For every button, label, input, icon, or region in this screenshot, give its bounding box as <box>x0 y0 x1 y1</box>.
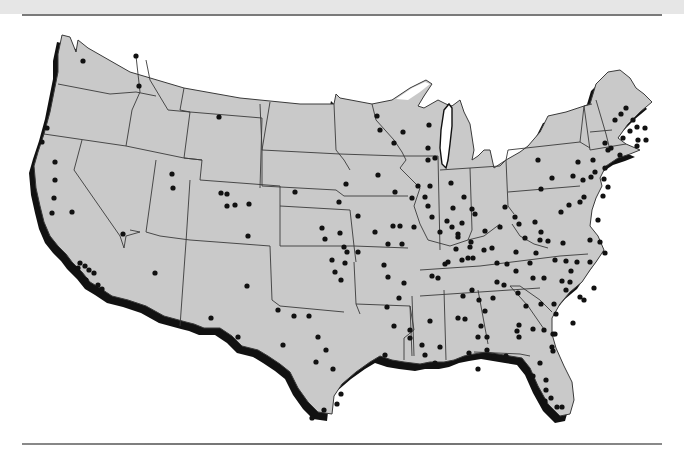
location-dot-icon <box>400 129 405 134</box>
location-dot-icon <box>538 301 543 306</box>
location-dot-icon <box>437 229 442 234</box>
location-dot-icon <box>332 269 337 274</box>
location-dot-icon <box>522 235 527 240</box>
location-dot-icon <box>537 237 542 242</box>
location-dot-icon <box>602 165 607 170</box>
location-dot-icon <box>319 225 324 230</box>
location-dot-icon <box>513 249 518 254</box>
location-dot-icon <box>355 213 360 218</box>
location-dot-icon <box>548 395 553 400</box>
location-dot-icon <box>512 214 517 219</box>
location-dot-icon <box>455 234 460 239</box>
location-dot-icon <box>382 352 387 357</box>
location-dot-icon <box>432 155 437 160</box>
location-dot-icon <box>482 308 487 313</box>
location-dot-icon <box>577 199 582 204</box>
location-dot-icon <box>552 331 557 336</box>
location-dot-icon <box>419 342 424 347</box>
location-dot-icon <box>541 327 546 332</box>
location-dot-icon <box>425 203 430 208</box>
location-dot-icon <box>136 83 141 88</box>
location-dot-icon <box>623 105 628 110</box>
location-dot-icon <box>275 307 280 312</box>
location-dot-icon <box>82 263 87 268</box>
location-dot-icon <box>476 297 481 302</box>
location-dot-icon <box>80 58 85 63</box>
location-dot-icon <box>450 205 455 210</box>
location-dot-icon <box>52 159 57 164</box>
location-dot-icon <box>374 113 379 118</box>
location-dot-icon <box>490 295 495 300</box>
us-landmass <box>34 35 652 416</box>
location-dot-icon <box>534 389 539 394</box>
location-dot-icon <box>432 360 437 365</box>
location-dot-icon <box>372 229 377 234</box>
location-dot-icon <box>232 202 237 207</box>
location-dot-icon <box>501 282 506 287</box>
location-dot-icon <box>429 273 434 278</box>
location-dot-icon <box>634 124 639 129</box>
location-dot-icon <box>218 190 223 195</box>
location-dot-icon <box>482 228 487 233</box>
location-dot-icon <box>538 186 543 191</box>
location-dot-icon <box>558 209 563 214</box>
location-dot-icon <box>469 206 474 211</box>
location-dot-icon <box>445 259 450 264</box>
location-dot-icon <box>559 278 564 283</box>
location-dot-icon <box>461 194 466 199</box>
location-dot-icon <box>422 352 427 357</box>
location-dot-icon <box>543 387 548 392</box>
location-dot-icon <box>627 128 632 133</box>
location-dot-icon <box>478 323 483 328</box>
location-dot-icon <box>642 125 647 130</box>
location-dot-icon <box>491 353 496 358</box>
location-dot-icon <box>617 152 622 157</box>
location-dot-icon <box>545 238 550 243</box>
location-dot-icon <box>549 344 554 349</box>
location-dot-icon <box>475 366 480 371</box>
location-dot-icon <box>342 260 347 265</box>
location-dot-icon <box>322 236 327 241</box>
location-dot-icon <box>620 135 625 140</box>
location-dot-icon <box>551 301 556 306</box>
location-dot-icon <box>377 127 382 132</box>
location-dot-icon <box>503 353 508 358</box>
location-dot-icon <box>334 401 339 406</box>
location-dot-icon <box>427 318 432 323</box>
location-dot-icon <box>44 125 49 130</box>
location-dot-icon <box>224 191 229 196</box>
location-dot-icon <box>612 117 617 122</box>
location-dot-icon <box>411 224 416 229</box>
location-dot-icon <box>426 122 431 127</box>
location-dot-icon <box>549 175 554 180</box>
location-dot-icon <box>429 214 434 219</box>
location-dot-icon <box>643 137 648 142</box>
location-dot-icon <box>542 398 547 403</box>
location-dot-icon <box>235 334 240 339</box>
location-dot-icon <box>497 224 502 229</box>
location-dot-icon <box>559 404 564 409</box>
location-dot-icon <box>514 328 519 333</box>
location-dot-icon <box>516 334 521 339</box>
location-dot-icon <box>567 279 572 284</box>
location-dot-icon <box>313 359 318 364</box>
location-dot-icon <box>385 274 390 279</box>
location-dot-icon <box>563 258 568 263</box>
location-dot-icon <box>86 267 91 272</box>
location-dot-icon <box>470 255 475 260</box>
location-dot-icon <box>602 250 607 255</box>
location-dot-icon <box>533 250 538 255</box>
location-dot-icon <box>306 313 311 318</box>
location-dot-icon <box>315 334 320 339</box>
location-dot-icon <box>399 241 404 246</box>
location-dot-icon <box>381 262 386 267</box>
location-dot-icon <box>560 240 565 245</box>
location-dot-icon <box>91 270 96 275</box>
location-dot-icon <box>401 280 406 285</box>
location-dot-icon <box>77 260 82 265</box>
location-dot-icon <box>460 293 465 298</box>
location-dot-icon <box>605 147 610 152</box>
location-dot-icon <box>466 350 471 355</box>
location-dot-icon <box>385 241 390 246</box>
location-dot-icon <box>99 286 104 291</box>
